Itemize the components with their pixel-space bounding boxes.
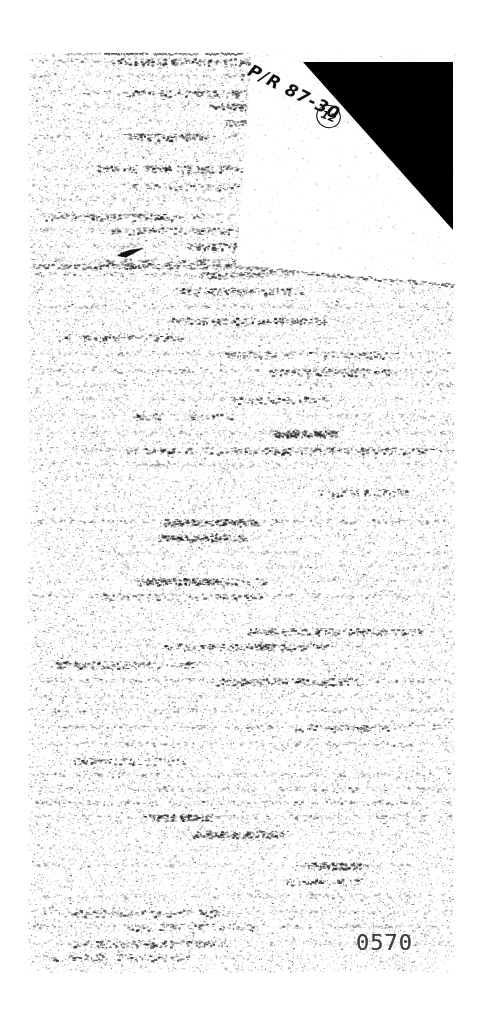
checkmark-annotation-icon (116, 247, 146, 259)
page-number-stamp: 0570 (356, 930, 413, 955)
scanned-document-page: P/R 87-30 12 0570 (0, 0, 480, 1014)
